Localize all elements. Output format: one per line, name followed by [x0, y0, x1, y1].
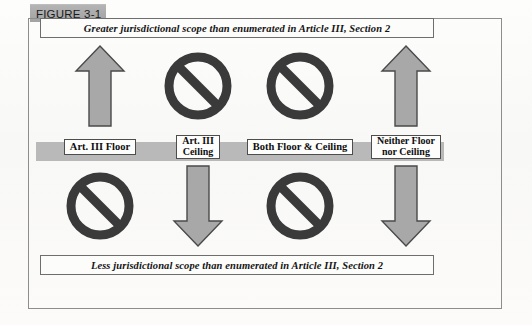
- column-2-bottom-symbol-cell: [150, 162, 246, 250]
- label-art-iii-ceiling: Art. III Ceiling: [176, 135, 220, 159]
- bottom-banner-text: Less jurisdictional scope than enumerate…: [91, 260, 383, 271]
- top-banner: Greater jurisdictional scope than enumer…: [40, 18, 434, 38]
- label-both-floor-and-ceiling: Both Floor & Ceiling: [247, 139, 354, 154]
- down-arrow-icon: [172, 163, 224, 249]
- label-art-iii-floor: Art. III Floor: [64, 139, 136, 154]
- column-1-bottom-symbol-cell: [52, 162, 148, 250]
- column-3-top-symbol-cell: [246, 40, 354, 132]
- up-arrow-icon: [380, 43, 432, 129]
- column-neither-floor-nor-ceiling: Neither Floor nor Ceiling: [356, 40, 456, 250]
- prohibition-icon: [163, 51, 233, 121]
- figure-page: FIGURE 3-1 Greater jurisdictional scope …: [0, 0, 532, 325]
- label-neither-floor-nor-ceiling: Neither Floor nor Ceiling: [371, 135, 441, 159]
- column-1-label-cell: Art. III Floor: [52, 132, 148, 162]
- bottom-banner: Less jurisdictional scope than enumerate…: [40, 255, 434, 275]
- prohibition-icon: [65, 171, 135, 241]
- up-arrow-icon: [74, 43, 126, 129]
- column-2-top-symbol-cell: [150, 40, 246, 132]
- column-1-top-symbol-cell: [52, 40, 148, 132]
- column-2-label-cell: Art. III Ceiling: [150, 132, 246, 162]
- column-art-iii-ceiling: Art. III Ceiling: [150, 40, 246, 250]
- column-3-bottom-symbol-cell: [246, 162, 354, 250]
- column-4-top-symbol-cell: [356, 40, 456, 132]
- column-3-label-cell: Both Floor & Ceiling: [246, 132, 354, 162]
- down-arrow-icon: [380, 163, 432, 249]
- column-art-iii-floor: Art. III Floor: [52, 40, 148, 250]
- column-both-floor-and-ceiling: Both Floor & Ceiling: [246, 40, 354, 250]
- prohibition-icon: [265, 171, 335, 241]
- columns-container: Art. III Floor Art. III: [10, 40, 464, 250]
- top-banner-text: Greater jurisdictional scope than enumer…: [84, 23, 390, 34]
- column-4-bottom-symbol-cell: [356, 162, 456, 250]
- column-4-label-cell: Neither Floor nor Ceiling: [356, 132, 456, 162]
- prohibition-icon: [265, 51, 335, 121]
